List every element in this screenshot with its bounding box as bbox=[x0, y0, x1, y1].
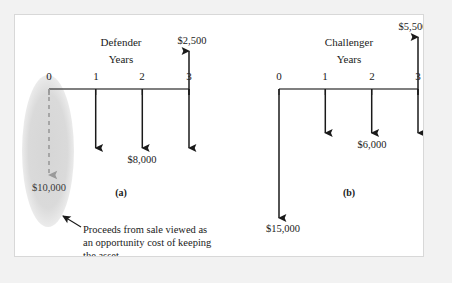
panel-b-years-label: Years bbox=[337, 53, 362, 66]
panel-b-annual-cost-label: $6,000 bbox=[358, 139, 387, 151]
panel-b-tick-label-1: 1 bbox=[322, 70, 328, 83]
panel-a-tick-label-3: 3 bbox=[186, 70, 192, 83]
panel-a-tick-label-1: 1 bbox=[93, 70, 99, 83]
panel-b-title: Challenger bbox=[325, 36, 373, 49]
callout-leader-a bbox=[63, 216, 81, 227]
cash-flow-diagram-svg bbox=[15, 15, 423, 256]
panel-a-annual-cost-label: $8,000 bbox=[128, 154, 157, 166]
panel-a-part-label: (a) bbox=[115, 187, 127, 199]
panel-a-tick-label-2: 2 bbox=[139, 70, 145, 83]
panel-a-opportunity-cost-label: $10,000 bbox=[32, 182, 66, 194]
panel-b-salvage-label: $5,500 bbox=[399, 21, 424, 33]
panel-a-callout-line-3: the asset bbox=[83, 249, 119, 257]
panel-a-salvage-label: $2,500 bbox=[178, 35, 207, 47]
panel-b-tick-label-2: 2 bbox=[369, 70, 375, 83]
panel-b-initial-cost-label: $15,000 bbox=[266, 223, 300, 235]
panel-a-tick-label-0: 0 bbox=[46, 70, 52, 83]
panel-b-part-label: (b) bbox=[343, 187, 355, 199]
panel-b-tick-label-3: 3 bbox=[415, 70, 421, 83]
figure-panel: Defender Years 0 1 2 3 $2,500 $8,000 $10… bbox=[14, 14, 424, 257]
panel-a-years-label: Years bbox=[109, 53, 134, 66]
panel-a-title: Defender bbox=[101, 36, 142, 49]
opportunity-cost-highlight bbox=[22, 75, 74, 227]
panel-b-tick-label-0: 0 bbox=[276, 70, 282, 83]
